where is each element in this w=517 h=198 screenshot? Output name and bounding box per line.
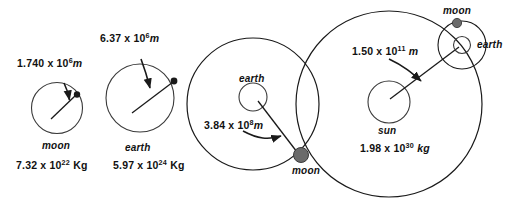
inset-earth-circle	[454, 37, 471, 54]
inset-earth-label: earth	[477, 39, 502, 50]
system-moon-blob	[294, 148, 309, 163]
moon-surface-dot	[74, 91, 80, 97]
earth-radius-label: 6.37 x 106m	[100, 32, 159, 44]
sun-circle	[368, 81, 410, 123]
sun-earth-distance-leader	[389, 59, 421, 81]
earth-mass-label: 5.97 x 1024 Kg	[113, 159, 185, 171]
earth-surface-dot	[171, 78, 178, 85]
inset-moon-label: moon	[443, 5, 471, 16]
sun-earth-system-group	[296, 11, 486, 197]
earth-body-label: earth	[125, 142, 150, 153]
moon-radius-label: 1.740 x 106m	[17, 57, 82, 69]
sun-mass-label: 1.98 x 1030 kg	[360, 142, 430, 154]
moon-mass-label: 7.32 x 1022 Kg	[16, 159, 88, 171]
earth-moon-system-group	[187, 38, 319, 170]
sun-earth-distance-label: 1.50 x 1011 m	[352, 45, 418, 57]
astronomy-scale-diagram: 1.740 x 106m moon 7.32 x 1022 Kg 6.37 x …	[0, 0, 517, 198]
inset-moon-dot	[452, 18, 461, 27]
earth-radius-leader	[141, 59, 150, 88]
moon-circle	[32, 83, 83, 134]
earth-moon-distance-label: 3.84 x 108m	[204, 119, 263, 131]
earth-body-group	[106, 59, 177, 132]
sun-label: sun	[378, 125, 396, 136]
system-moon-label: moon	[292, 165, 320, 176]
moon-body-group	[32, 83, 83, 134]
earth-radius-line	[132, 82, 173, 113]
moon-radius-line	[51, 95, 76, 119]
earth-moon-distance-line	[258, 101, 297, 152]
earth-moon-distance-leader	[243, 131, 281, 138]
moon-body-label: moon	[42, 140, 70, 151]
earth-circle	[106, 64, 174, 132]
system-earth-label: earth	[239, 73, 264, 84]
earth-orbit-circle	[296, 11, 482, 197]
